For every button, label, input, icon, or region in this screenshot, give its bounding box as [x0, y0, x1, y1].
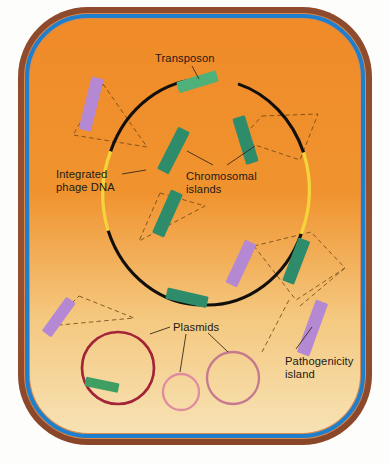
label-chromosomal-islands: Chromosomal islands — [186, 170, 257, 195]
cell-diagram-svg — [0, 0, 390, 463]
figure-canvas: Transposon Integrated phage DNA Chromoso… — [0, 0, 390, 463]
label-pathogenicity-island: Pathogenicity island — [285, 355, 353, 380]
label-integrated-phage-dna: Integrated phage DNA — [56, 168, 115, 193]
label-plasmids: Plasmids — [173, 321, 219, 334]
label-transposon: Transposon — [155, 52, 215, 65]
